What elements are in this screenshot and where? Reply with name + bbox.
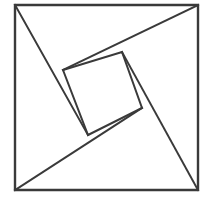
- tangram-figure: Tangram dissection of a square: [0, 0, 212, 200]
- tangram-diagram: [0, 0, 212, 200]
